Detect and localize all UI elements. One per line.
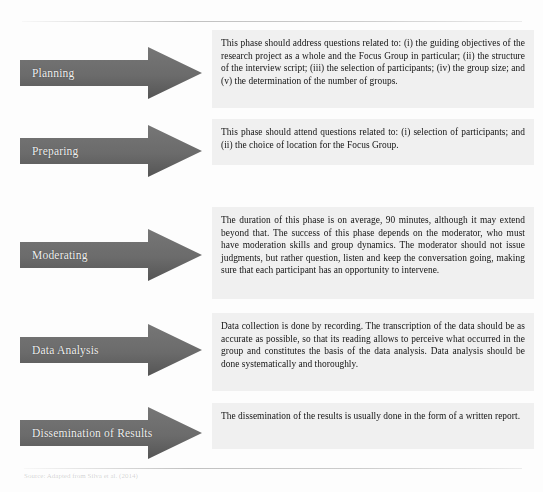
arrow-dissemination: Dissemination of Results bbox=[20, 407, 202, 459]
phase-text-data-analysis: Data collection is done by recording. Th… bbox=[212, 313, 534, 391]
top-rule bbox=[22, 21, 522, 22]
arrow-preparing: Preparing bbox=[20, 125, 202, 177]
arrow-label-data-analysis: Data Analysis bbox=[32, 344, 99, 356]
arrow-moderating: Moderating bbox=[20, 229, 202, 281]
arrow-data-analysis: Data Analysis bbox=[20, 324, 202, 376]
arrow-label-dissemination: Dissemination of Results bbox=[32, 427, 152, 439]
figure-canvas: Planning This phase should address quest… bbox=[0, 0, 543, 492]
bottom-rule bbox=[24, 468, 522, 469]
arrow-planning: Planning bbox=[20, 47, 202, 99]
phase-text-moderating: The duration of this phase is on average… bbox=[212, 207, 534, 299]
phase-text-dissemination: The dissemination of the results is usua… bbox=[212, 403, 534, 449]
phase-text-preparing: This phase should attend questions relat… bbox=[212, 119, 534, 165]
arrow-label-planning: Planning bbox=[32, 67, 75, 79]
phase-text-planning: This phase should address questions rela… bbox=[212, 30, 534, 108]
figure-caption: Source: Adapted from Silva et al. (2014) bbox=[24, 472, 444, 481]
arrow-label-preparing: Preparing bbox=[32, 145, 79, 157]
arrow-label-moderating: Moderating bbox=[32, 249, 88, 261]
